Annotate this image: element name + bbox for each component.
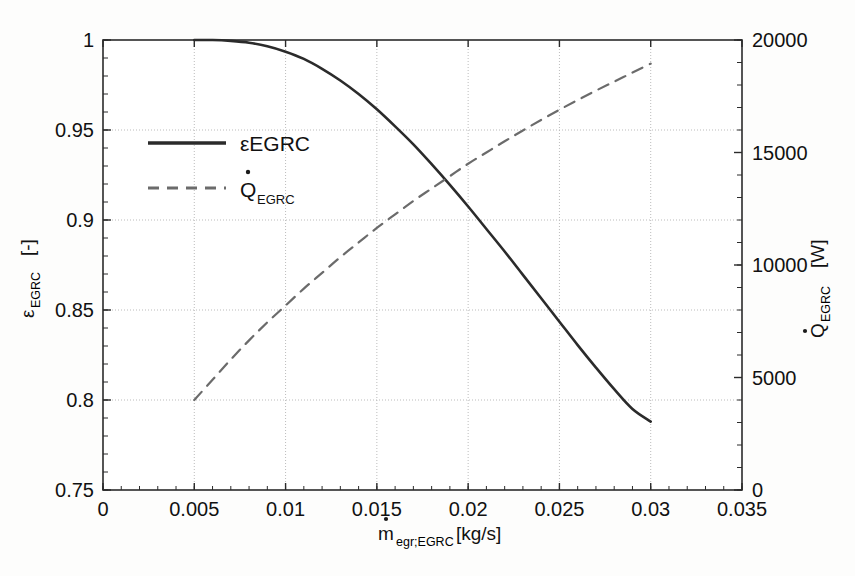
x-axis-title-unit: [kg/s] xyxy=(456,523,501,544)
x-tick-label: 0.03 xyxy=(631,498,670,520)
y-axis-right-title-overdot xyxy=(803,329,807,333)
y-left-tick-label: 0.85 xyxy=(55,299,94,321)
y-left-tick-label: 0.95 xyxy=(55,119,94,141)
y-right-tick-label: 20000 xyxy=(752,29,808,51)
y-left-tick-label: 0.75 xyxy=(55,479,94,501)
y-axis-left-title-subscript: EGRC xyxy=(29,272,43,308)
y-axis-left-title-symbol: ε xyxy=(17,309,38,318)
x-tick-label: 0 xyxy=(97,498,108,520)
x-tick-label: 0.015 xyxy=(352,498,402,520)
y-axis-right-title-subscript: EGRC xyxy=(819,286,833,322)
x-tick-label: 0.025 xyxy=(534,498,584,520)
chart-figure: 00.0050.010.0150.020.0250.030.0350.750.8… xyxy=(0,0,855,576)
y-right-tick-label: 5000 xyxy=(752,367,797,389)
x-axis-title-subscript: egr;EGRC xyxy=(396,535,454,549)
y-left-tick-label: 0.8 xyxy=(66,389,94,411)
y-axis-right-title-symbol: Q xyxy=(807,323,828,338)
legend-label-epsilon: εEGRC xyxy=(240,132,310,155)
x-tick-label: 0.01 xyxy=(266,498,305,520)
legend-label-qdot: Q xyxy=(240,178,256,201)
y-left-tick-label: 0.9 xyxy=(66,209,94,231)
x-axis-title-symbol: m xyxy=(378,523,394,544)
x-tick-label: 0.005 xyxy=(169,498,219,520)
chart-canvas: 00.0050.010.0150.020.0250.030.0350.750.8… xyxy=(0,0,855,576)
legend-label-qdot-subscript: EGRC xyxy=(257,192,295,207)
y-axis-left-title-unit: [-] xyxy=(17,239,38,256)
x-axis-title-overdot xyxy=(384,517,388,521)
y-axis-right-title-unit: [W] xyxy=(807,240,828,269)
y-right-tick-label: 15000 xyxy=(752,142,808,164)
y-right-tick-label: 10000 xyxy=(752,254,808,276)
x-tick-label: 0.035 xyxy=(717,498,767,520)
y-right-tick-label: 0 xyxy=(752,479,763,501)
x-tick-label: 0.02 xyxy=(449,498,488,520)
plot-background xyxy=(103,40,742,490)
legend-qdot-overdot xyxy=(246,170,250,174)
y-left-tick-label: 1 xyxy=(83,29,94,51)
